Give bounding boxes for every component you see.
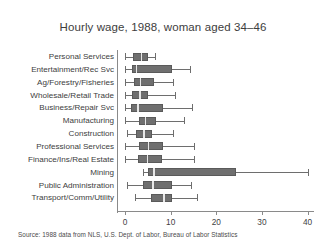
- box-iqr: [148, 168, 236, 176]
- x-axis-tick: [125, 211, 126, 215]
- x-axis: 010203040: [0, 211, 326, 233]
- whisker-cap-max: [194, 143, 195, 150]
- whisker-cap-min: [125, 92, 126, 99]
- category-label: Manufacturing: [2, 115, 114, 127]
- box-iqr: [131, 104, 163, 112]
- whisker-cap-max: [194, 156, 195, 163]
- box-iqr: [138, 155, 162, 163]
- boxplot-row: Personal Services: [0, 51, 326, 63]
- category-label: Public Administration: [2, 180, 114, 192]
- median-line: [136, 65, 137, 73]
- boxplot-row: Wholesale/Retail Trade: [0, 90, 326, 102]
- chart-figure: Hourly wage, 1988, woman aged 34–46 Pers…: [0, 0, 326, 250]
- whisker-cap-min: [125, 117, 126, 124]
- median-line: [152, 181, 153, 189]
- median-line: [141, 53, 142, 61]
- median-line: [143, 130, 144, 138]
- whisker-cap-min: [143, 169, 144, 176]
- whisker-cap-max: [190, 66, 191, 73]
- whisker-cap-min: [125, 53, 126, 60]
- median-line: [147, 155, 148, 163]
- boxplot-row: Public Administration: [0, 180, 326, 192]
- median-line: [145, 117, 146, 125]
- box-iqr: [143, 181, 172, 189]
- whisker-cap-min: [127, 182, 128, 189]
- x-axis-tick-label: 30: [250, 217, 274, 227]
- whisker-cap-min: [127, 130, 128, 137]
- median-line: [153, 168, 154, 176]
- category-label: Transport/Comm/Utility: [2, 192, 114, 204]
- median-line: [140, 78, 141, 86]
- whisker-cap-max: [173, 79, 174, 86]
- whisker-cap-min: [125, 79, 126, 86]
- box-iqr: [134, 78, 154, 86]
- whisker-cap-max: [184, 117, 185, 124]
- whisker-cap-max: [191, 182, 192, 189]
- box-iqr: [139, 142, 163, 150]
- whisker-cap-min: [125, 156, 126, 163]
- x-axis-tick: [262, 211, 263, 215]
- boxplot-row: Entertainment/Rec Svc: [0, 64, 326, 76]
- x-axis-tick: [171, 211, 172, 215]
- box-iqr: [132, 65, 172, 73]
- whisker-cap-max: [173, 130, 174, 137]
- source-note: Source: 1988 data from NLS, U.S. Dept. o…: [18, 231, 237, 238]
- whisker-cap-max: [192, 104, 193, 111]
- category-label: Business/Repair Svc: [2, 102, 114, 114]
- boxplot-row: Ag/Forestry/Fisheries: [0, 77, 326, 89]
- boxplot-row: Business/Repair Svc: [0, 102, 326, 114]
- median-line: [163, 194, 164, 202]
- category-label: Personal Services: [2, 51, 114, 63]
- boxplot-row: Finance/Ins/Real Estate: [0, 154, 326, 166]
- y-axis-spine: [117, 50, 118, 213]
- plot-area: Personal ServicesEntertainment/Rec SvcAg…: [0, 48, 326, 213]
- x-axis-tick: [308, 211, 309, 215]
- x-axis-tick-label: 40: [296, 217, 320, 227]
- category-label: Construction: [2, 128, 114, 140]
- boxplot-row: Transport/Comm/Utility: [0, 192, 326, 204]
- whisker-cap-min: [125, 104, 126, 111]
- whisker-cap-min: [135, 194, 136, 201]
- box-iqr: [151, 194, 172, 202]
- category-label: Finance/Ins/Real Estate: [2, 154, 114, 166]
- boxplot-row: Professional Services: [0, 141, 326, 153]
- x-axis-tick-label: 20: [204, 217, 228, 227]
- box-iqr: [139, 117, 156, 125]
- category-label: Professional Services: [2, 141, 114, 153]
- chart-title: Hourly wage, 1988, woman aged 34–46: [0, 21, 326, 33]
- category-label: Ag/Forestry/Fisheries: [2, 77, 114, 89]
- boxplot-row: Mining: [0, 167, 326, 179]
- x-axis-tick-label: 10: [159, 217, 183, 227]
- category-label: Wholesale/Retail Trade: [2, 90, 114, 102]
- median-line: [137, 104, 138, 112]
- median-line: [139, 91, 140, 99]
- whisker-cap-min: [125, 143, 126, 150]
- category-label: Mining: [2, 167, 114, 179]
- x-axis-tick: [216, 211, 217, 215]
- x-axis-tick-label: 0: [113, 217, 137, 227]
- median-line: [148, 142, 149, 150]
- whisker-cap-max: [175, 92, 176, 99]
- category-label: Entertainment/Rec Svc: [2, 64, 114, 76]
- whisker-cap-min: [125, 66, 126, 73]
- whisker-cap-max: [155, 53, 156, 60]
- boxplot-row: Manufacturing: [0, 115, 326, 127]
- boxplot-row: Construction: [0, 128, 326, 140]
- whisker-cap-max: [197, 194, 198, 201]
- whisker-cap-max: [308, 169, 309, 176]
